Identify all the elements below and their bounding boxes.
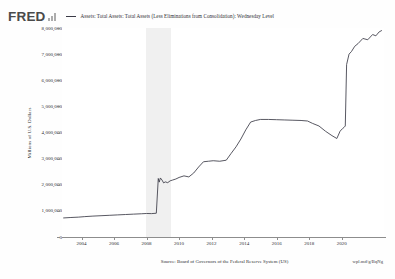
x-axis-tick-mark [309, 237, 310, 240]
series-line-path [64, 31, 382, 218]
x-axis-tick-mark [342, 237, 343, 240]
y-axis-tick-mark [57, 133, 60, 134]
x-axis-tick-label: 2020 [337, 241, 347, 246]
x-axis-tick-label: 2010 [174, 241, 184, 246]
x-axis-tick-label: 2004 [77, 241, 87, 246]
plot-area [62, 28, 384, 237]
x-axis-tick-label: 2016 [272, 241, 282, 246]
x-axis-tick-mark [147, 237, 148, 240]
y-axis-tick-mark [57, 211, 60, 212]
y-axis-tick-label: 1,000,000 [6, 208, 62, 213]
y-axis-tick-mark [57, 106, 60, 107]
series-line-chart [62, 28, 384, 237]
x-axis-tick-label: 2006 [109, 241, 119, 246]
line-swatch-icon [66, 16, 76, 17]
y-axis-tick-mark [57, 237, 60, 238]
x-axis-tick-label: 2014 [239, 241, 249, 246]
y-axis-tick-mark [57, 80, 60, 81]
y-axis-tick-label: 7,000,000 [6, 52, 62, 57]
x-axis-tick-mark [114, 237, 115, 240]
y-axis-tick-mark [57, 28, 60, 29]
x-axis-tick-label: 2008 [142, 241, 152, 246]
y-axis-tick-label: 4,000,000 [6, 130, 62, 135]
chart-footer: Source: Board of Governors of the Federa… [62, 257, 387, 266]
y-axis-tick-mark [57, 159, 60, 160]
y-axis-tick-label: 2,000,000 [6, 182, 62, 187]
x-axis-tick-mark [277, 237, 278, 240]
legend-series-label[interactable]: Assets: Total Assets: Total Assets (Less… [81, 14, 275, 19]
bar-chart-icon [48, 12, 57, 21]
x-axis-tick-mark [212, 237, 213, 240]
chart-legend: Assets: Total Assets: Total Assets (Less… [66, 14, 275, 19]
x-axis-tick-label: 2012 [207, 241, 217, 246]
x-axis-tick-label: 2018 [304, 241, 314, 246]
short-link[interactable]: wpl.md/g/BqNg [353, 259, 383, 264]
x-axis-tick-mark [179, 237, 180, 240]
x-axis-tick-mark [82, 237, 83, 240]
y-axis-tick-label: 0 [6, 235, 62, 240]
x-axis-tick-mark [244, 237, 245, 240]
y-axis-tick-label: 5,000,000 [6, 104, 62, 109]
y-axis-tick-mark [57, 185, 60, 186]
fred-logo[interactable]: FRED [8, 10, 46, 24]
x-axis: 200420062008201020122014201620182020 [62, 237, 384, 253]
y-axis-tick-label: 8,000,000 [6, 26, 62, 31]
fred-chart: FRED Assets: Total Assets: Total Assets … [0, 0, 395, 279]
y-axis-tick-mark [57, 54, 60, 55]
chart-header: FRED Assets: Total Assets: Total Assets … [8, 9, 274, 24]
y-axis-tick-label: 6,000,000 [6, 78, 62, 83]
y-axis-tick-label: 3,000,000 [6, 156, 62, 161]
source-attribution: Source: Board of Governors of the Federa… [161, 259, 289, 264]
